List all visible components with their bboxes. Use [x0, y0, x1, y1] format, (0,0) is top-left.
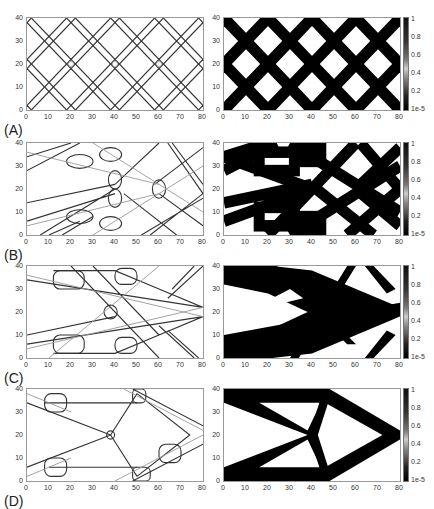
y-tick-label: 30 [9, 408, 23, 415]
x-tick-label: 50 [326, 484, 340, 491]
x-tick-label: 10 [238, 484, 252, 491]
x-tick-label: 30 [85, 484, 99, 491]
x-tick-label: 50 [129, 484, 143, 491]
x-tick-label: 0 [216, 484, 230, 491]
x-tick-label: 80 [195, 484, 209, 491]
x-tick-label: 80 [392, 484, 406, 491]
x-tick-label: 0 [19, 484, 33, 491]
colorbar-tick-label: 1e-5 [411, 476, 425, 483]
density-plot [223, 388, 401, 482]
x-tick-label: 10 [41, 484, 55, 491]
y-tick-label: 0 [206, 477, 220, 484]
colorbar-tick-label: 0.4 [411, 440, 421, 447]
y-tick-label: 30 [206, 408, 220, 415]
panel-label: (D) [4, 494, 23, 508]
x-tick-label: 40 [304, 484, 318, 491]
x-tick-label: 40 [107, 484, 121, 491]
y-tick-label: 10 [9, 454, 23, 461]
layout-plot [26, 388, 204, 482]
x-tick-label: 20 [63, 484, 77, 491]
y-tick-label: 10 [206, 454, 220, 461]
colorbar-tick-label: 0.6 [411, 422, 421, 429]
x-tick-label: 70 [173, 484, 187, 491]
x-tick-label: 70 [370, 484, 384, 491]
y-tick-label: 40 [206, 385, 220, 392]
colorbar-tick-label: 1 [411, 386, 415, 393]
x-tick-label: 30 [282, 484, 296, 491]
colorbar [403, 388, 409, 482]
y-tick-label: 0 [9, 477, 23, 484]
y-tick-label: 40 [9, 385, 23, 392]
y-tick-label: 20 [9, 431, 23, 438]
colorbar-tick-label: 0.2 [411, 458, 421, 465]
x-tick-label: 20 [260, 484, 274, 491]
x-tick-label: 60 [151, 484, 165, 491]
y-tick-label: 20 [206, 431, 220, 438]
colorbar-tick-label: 0.8 [411, 404, 421, 411]
x-tick-label: 60 [348, 484, 362, 491]
